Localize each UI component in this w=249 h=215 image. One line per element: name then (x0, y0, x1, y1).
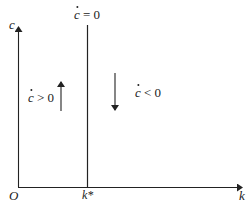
x-axis-label: k (239, 189, 245, 202)
locus-label-rel: = 0 (83, 7, 100, 22)
region-right-var: c (135, 86, 141, 99)
origin-label: O (9, 189, 18, 202)
region-right-label: c < 0 (135, 86, 161, 99)
locus-label: c = 0 (74, 8, 100, 21)
region-left-label: c > 0 (28, 91, 54, 104)
region-left-rel: > 0 (37, 90, 54, 105)
y-axis-label: c (9, 18, 15, 31)
region-right-rel: < 0 (144, 85, 161, 100)
phase-diagram: c c = 0 c > 0 c < 0 O k* k (0, 0, 249, 215)
figure-caption (86, 201, 182, 209)
locus-label-var: c (74, 8, 80, 21)
diagram-canvas (0, 0, 249, 215)
region-left-var: c (28, 91, 34, 104)
x-tick-label-kstar: k* (82, 189, 93, 201)
